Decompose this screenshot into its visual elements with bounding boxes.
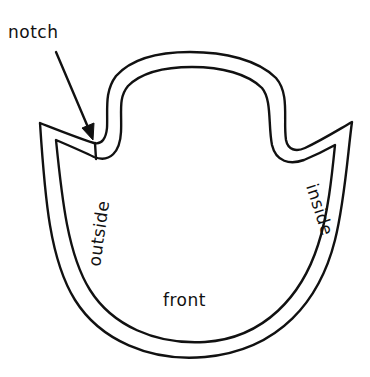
outside-label: outside xyxy=(84,199,113,267)
notch-label: notch xyxy=(8,22,58,42)
notch-arrow-head-icon xyxy=(82,123,94,140)
pattern-diagram: notch outside inside front xyxy=(0,0,370,377)
front-label: front xyxy=(163,290,206,310)
outer-cutting-line xyxy=(40,52,352,358)
notch-arrow-shaft xyxy=(56,52,90,132)
notch-mark xyxy=(95,143,96,159)
inside-label: inside xyxy=(302,181,338,238)
